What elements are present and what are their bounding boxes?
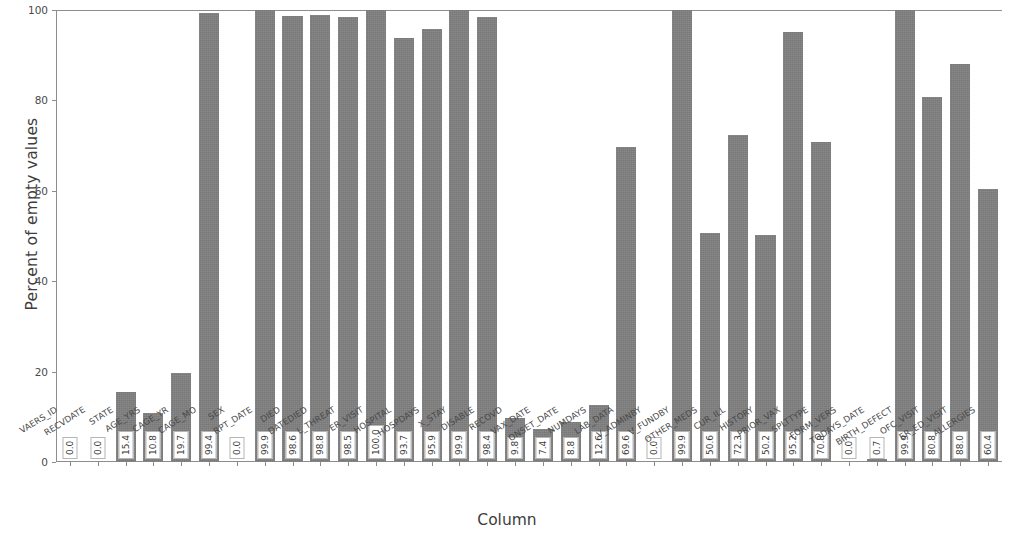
plot-area: 020406080100 0.00.015.410.819.799.40.099… <box>56 10 1002 462</box>
y-tick-mark <box>52 191 56 192</box>
bar[interactable] <box>449 10 469 462</box>
bar[interactable] <box>394 38 414 462</box>
bar[interactable] <box>422 29 442 462</box>
bar[interactable] <box>672 10 692 462</box>
y-tick-mark <box>52 10 56 11</box>
y-axis-title: Percent of empty values <box>23 64 41 364</box>
x-tick-mark <box>932 462 933 466</box>
x-tick-mark <box>960 462 961 466</box>
bar[interactable] <box>477 17 497 462</box>
y-tick-label: 40 <box>22 275 48 287</box>
bar[interactable] <box>310 15 330 462</box>
y-tick-label: 60 <box>22 185 48 197</box>
x-axis-title: Column <box>0 511 1014 529</box>
bar[interactable] <box>783 32 803 462</box>
bar[interactable] <box>199 13 219 462</box>
bar[interactable] <box>255 10 275 462</box>
axis-spine-top <box>56 10 1002 11</box>
bar[interactable] <box>366 10 386 462</box>
x-tick-mark <box>905 462 906 466</box>
bar[interactable] <box>950 64 970 462</box>
bar[interactable] <box>978 189 998 462</box>
y-tick-label: 80 <box>22 94 48 106</box>
y-tick-label: 100 <box>22 4 48 16</box>
y-tick-mark <box>52 100 56 101</box>
y-tick-mark <box>52 281 56 282</box>
x-tick-mark <box>988 462 989 466</box>
y-tick-mark <box>52 372 56 373</box>
y-tick-label: 20 <box>22 366 48 378</box>
bar[interactable] <box>895 10 915 462</box>
bar[interactable] <box>282 16 302 462</box>
chart-figure: Percent of empty values Column 020406080… <box>0 0 1014 533</box>
axis-spine-left <box>56 10 57 462</box>
bar[interactable] <box>338 17 358 462</box>
